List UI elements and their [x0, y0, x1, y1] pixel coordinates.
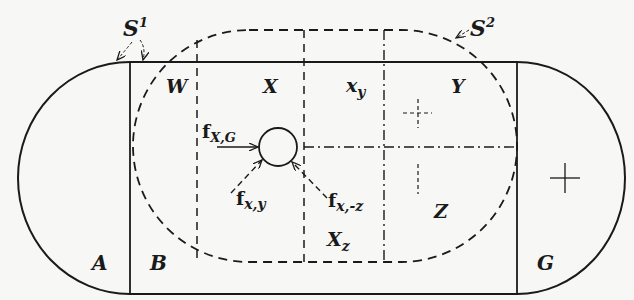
label-B: B — [149, 251, 167, 275]
label-fxz: fx,-z — [328, 189, 364, 214]
label-fXG: fX,G — [202, 120, 236, 145]
label-fxy: fx,y — [236, 187, 266, 212]
label-W: W — [166, 75, 189, 97]
label-A: A — [90, 251, 108, 275]
plus-marker-solid — [550, 163, 580, 193]
label-G: G — [537, 251, 554, 275]
boundary-S2-dashed — [133, 30, 517, 262]
label-S1: S1 — [123, 15, 148, 41]
force-arrow-fxz — [292, 162, 327, 198]
label-Z: Z — [433, 200, 449, 222]
life-space-diagram: S1 S2 A B G W X xy Y Xz Z fX,G fx,y fx,-… — [0, 0, 634, 300]
S1-pointer-left — [117, 42, 132, 60]
label-Y: Y — [451, 75, 467, 97]
person-circle — [259, 128, 297, 166]
label-xy: xy — [345, 74, 366, 100]
S1-pointer-right — [140, 40, 144, 60]
label-X: X — [262, 75, 279, 97]
label-Xz: Xz — [326, 228, 351, 254]
S2-pointer — [456, 30, 469, 38]
outer-region-boundary — [18, 62, 625, 294]
label-S2: S2 — [470, 15, 495, 41]
